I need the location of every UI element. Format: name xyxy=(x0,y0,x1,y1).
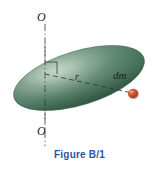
figure-illustration xyxy=(0,0,159,172)
mass-element-dot xyxy=(128,89,139,99)
ellipsoid-body xyxy=(6,32,152,123)
axis-label-bottom: O xyxy=(37,125,46,137)
figure-b-1: O O r dm Figure B/1 xyxy=(0,0,159,172)
figure-caption: Figure B/1 xyxy=(0,150,159,160)
radius-label: r xyxy=(75,72,79,82)
mass-element-label: dm xyxy=(113,70,126,81)
axis-label-top: O xyxy=(37,11,46,23)
